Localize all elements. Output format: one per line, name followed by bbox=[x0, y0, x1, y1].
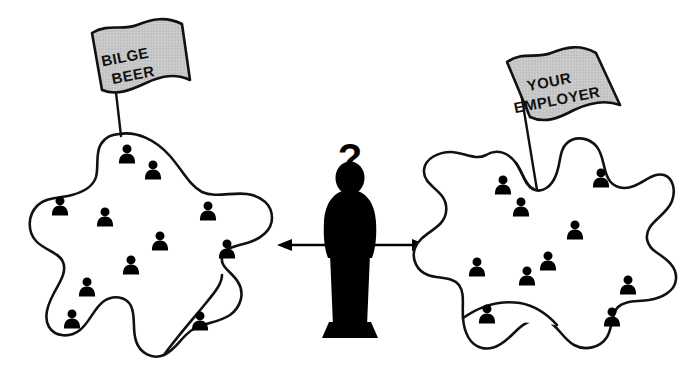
person-silhouette-icon bbox=[322, 162, 378, 339]
scene-svg: BILGE BEER ? bbox=[0, 0, 685, 375]
left-group: BILGE BEER bbox=[30, 19, 272, 356]
illustration-canvas: BILGE BEER ? bbox=[0, 0, 685, 375]
right-group: YOUR EMPLOYER bbox=[414, 47, 676, 348]
arrow-left-icon bbox=[277, 239, 332, 251]
center-group: ? bbox=[277, 136, 427, 338]
